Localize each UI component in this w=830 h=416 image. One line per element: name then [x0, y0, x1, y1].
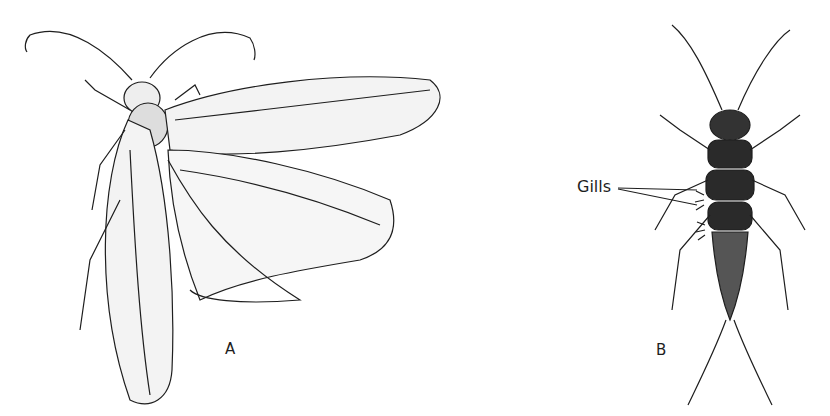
panel-b-label: B — [656, 341, 666, 359]
figure-canvas: A B Gills — [0, 0, 830, 416]
insect-illustration — [0, 0, 830, 416]
panel-a-label: A — [225, 340, 235, 358]
gills-annotation: Gills — [577, 177, 611, 196]
panel-b-nymph — [655, 25, 805, 405]
